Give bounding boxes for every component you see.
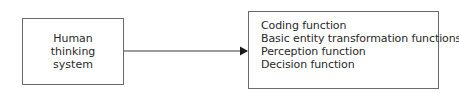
function-item: Decision function <box>261 58 438 71</box>
functions-node: Coding function Basic entity transformat… <box>248 11 439 89</box>
function-item: Coding function <box>261 19 438 32</box>
function-item: Basic entity transformation functions <box>261 32 438 45</box>
function-item: Perception function <box>261 45 438 58</box>
arrowhead-icon <box>240 47 248 56</box>
